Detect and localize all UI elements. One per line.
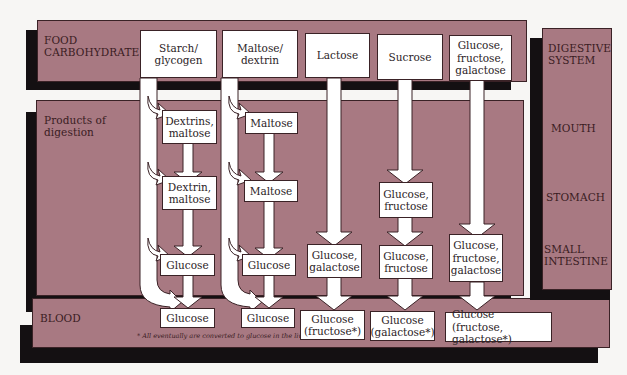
glucose-fructose-galactose-star-box: Glucose (fructose, galactose*) bbox=[445, 312, 552, 342]
glucose-fructose-star-box: Glucose (fructose*) bbox=[300, 310, 365, 340]
glucose-galactose-star-box: Glucose (galactose*) bbox=[370, 311, 435, 341]
starch-glycogen-box: Starch/ glycogen bbox=[140, 30, 217, 78]
lactose-box: Lactose bbox=[305, 33, 370, 78]
maltose-dextrin-box: Maltose/ dextrin bbox=[222, 30, 298, 78]
glucose-galactose-box: Glucose, galactose bbox=[307, 244, 362, 278]
glucose-fructose-galactose-food-box: Glucose, fructose, galactose bbox=[449, 35, 512, 81]
maltose-mouth-box: Maltose bbox=[245, 112, 298, 134]
dextrin-maltose-box: Dextrin, maltose bbox=[162, 176, 217, 210]
sucrose-box: Sucrose bbox=[377, 34, 443, 80]
col1-glucose-intestine-box: Glucose bbox=[160, 254, 215, 276]
col1-glucose-blood-box: Glucose bbox=[160, 308, 215, 328]
col2-glucose-intestine-box: Glucose bbox=[242, 254, 296, 276]
dextrins-maltose-box: Dextrins, maltose bbox=[162, 110, 217, 144]
maltose-stomach-box: Maltose bbox=[244, 180, 298, 202]
glucose-fructose-galactose-intestine-box: Glucose, fructose, galactose bbox=[449, 234, 503, 282]
glucose-fructose-intestine-box: Glucose, fructose bbox=[379, 245, 433, 279]
col2-glucose-blood-box: Glucose bbox=[241, 308, 295, 328]
glucose-fructose-stomach-box: Glucose, fructose bbox=[379, 182, 433, 218]
